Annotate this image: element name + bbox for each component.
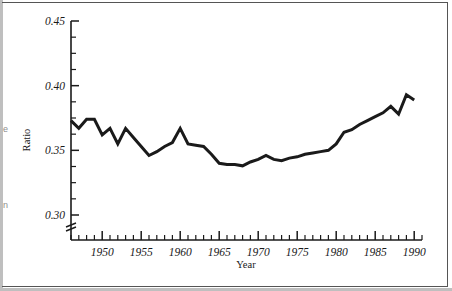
x-tick-label: 1950 — [91, 246, 114, 258]
x-tick-label: 1970 — [247, 246, 270, 258]
figure-panel: e n 0.300.350.400.45 1950195519601965197… — [0, 0, 452, 291]
x-tick-label: 1955 — [130, 246, 153, 258]
x-tick-label: 1985 — [364, 246, 387, 258]
y-axis-tick-labels: 0.300.350.400.45 — [45, 15, 65, 221]
x-tick-label: 1975 — [286, 246, 309, 258]
y-tick-label: 0.40 — [45, 80, 65, 92]
y-tick-label: 0.30 — [45, 209, 65, 221]
x-tick-label: 1965 — [208, 246, 231, 258]
x-tick-label: 1990 — [403, 246, 426, 258]
x-axis-tick-labels: 195019551960196519701975198019851990 — [91, 246, 426, 258]
y-tick-label: 0.35 — [45, 144, 65, 156]
y-tick-label: 0.45 — [45, 15, 65, 27]
line-chart: 0.300.350.400.45 19501955196019651970197… — [0, 0, 452, 291]
y-axis-title: Ratio — [21, 129, 32, 152]
x-axis-title: Year — [236, 259, 256, 270]
x-tick-label: 1960 — [169, 246, 192, 258]
x-tick-label: 1980 — [325, 246, 348, 258]
ratio-series-line — [71, 95, 414, 166]
